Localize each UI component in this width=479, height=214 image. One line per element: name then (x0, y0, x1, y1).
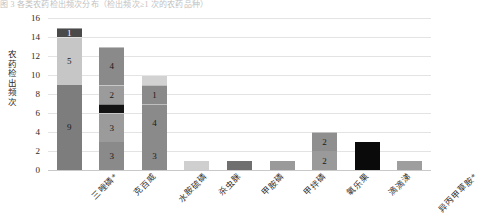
bar-segment[interactable] (142, 75, 167, 85)
x-tick-label: 滴滴涕 (387, 172, 413, 198)
bar[interactable]: 341 (142, 75, 167, 170)
bar-segment[interactable]: 2 (99, 85, 124, 104)
bar-segment[interactable]: 1 (142, 85, 167, 104)
x-tick-label: 杀虫脒 (217, 172, 243, 198)
bar-segment[interactable] (355, 142, 380, 171)
bar[interactable] (270, 161, 295, 171)
x-tick-label: 甲胺磷 (260, 172, 286, 198)
y-tick-label: 14 (31, 33, 40, 42)
x-axis-labels: 三唑磷*克百威水胺硫磷杀虫脒甲胺磷甲拌磷氧乐果滴滴涕异丙甲草胺* (48, 170, 431, 213)
plot-area: 951332434122 (48, 18, 431, 170)
y-tick-label: 0 (36, 166, 41, 175)
x-tick-label: 甲拌磷 (302, 172, 328, 198)
x-tick-label: 三唑磷* (91, 172, 120, 201)
bar-segment[interactable]: 3 (142, 142, 167, 171)
y-tick-label: 10 (31, 71, 40, 80)
bar-segment[interactable]: 5 (57, 37, 82, 85)
bar-segment[interactable]: 4 (142, 104, 167, 142)
bar[interactable] (227, 161, 252, 171)
bar-segment[interactable] (397, 161, 422, 171)
y-tick-label: 6 (36, 109, 41, 118)
bar-segment[interactable]: 3 (99, 142, 124, 171)
bar[interactable] (397, 161, 422, 171)
bar-segment[interactable]: 2 (312, 151, 337, 170)
y-tick-label: 2 (36, 147, 41, 156)
bar-segment[interactable]: 9 (57, 85, 82, 171)
y-axis-ticks: 0246810121416 (0, 18, 46, 170)
bar-segment[interactable]: 1 (57, 28, 82, 38)
y-tick-label: 8 (36, 90, 41, 99)
bar[interactable]: 3324 (99, 47, 124, 171)
y-tick-label: 12 (31, 52, 40, 61)
bar[interactable]: 22 (312, 132, 337, 170)
bar[interactable]: 951 (57, 28, 82, 171)
bar-segment[interactable]: 4 (99, 47, 124, 85)
bar-segment[interactable] (184, 161, 209, 171)
x-tick-label: 克百威 (132, 172, 158, 198)
x-tick-label: 氧乐果 (345, 172, 371, 198)
bar[interactable] (355, 142, 380, 171)
y-tick-label: 4 (36, 128, 41, 137)
x-tick-label: 异丙甲草胺* (436, 172, 478, 214)
bar-segment[interactable] (270, 161, 295, 171)
x-tick-label: 水胺硫磷 (177, 172, 209, 204)
figure-caption: 图 3 各类农药检出频次分布（检出频次≥1 次的农药品种） (0, 0, 441, 9)
bar-segment[interactable] (99, 104, 124, 114)
bar[interactable] (184, 161, 209, 171)
y-tick-label: 16 (31, 14, 40, 23)
bar-segment[interactable]: 2 (312, 132, 337, 151)
bar-group: 951332434122 (48, 18, 431, 170)
bar-segment[interactable] (227, 161, 252, 171)
bar-segment[interactable]: 3 (99, 113, 124, 142)
